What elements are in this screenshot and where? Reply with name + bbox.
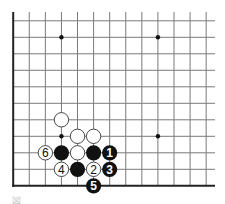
go-board-diagram: 614235 [0,0,225,204]
white-stone-icon [54,113,68,127]
white-stone-icon [70,129,84,143]
board-grid [12,12,215,187]
black-stone: 1 [102,145,117,160]
move-number-label: 1 [106,146,113,160]
move-number-label: 2 [90,163,97,177]
black-stone-icon [86,145,101,160]
white-stone [54,113,68,127]
move-number-label: 4 [58,163,65,177]
white-stone [86,129,100,143]
black-stone [86,145,101,160]
diagram-caption: 図 [12,196,22,204]
star-point-icon [156,134,160,138]
white-stone-icon [70,146,84,160]
white-stone [70,146,84,160]
white-stone: 4 [54,162,68,177]
black-stone-icon [54,145,69,160]
black-stone [54,145,69,160]
white-stone: 6 [38,146,52,161]
move-number-label: 3 [106,163,113,177]
black-stone: 5 [86,178,101,193]
white-stone [70,129,84,143]
white-stone-icon [86,129,100,143]
star-point-icon [156,35,160,39]
move-number-label: 5 [90,179,97,193]
black-stone-icon [70,162,85,177]
move-number-label: 6 [42,146,49,160]
star-point-icon [59,134,63,138]
black-stone [70,162,85,177]
black-stone: 3 [102,162,117,177]
white-stone: 2 [86,162,100,177]
star-point-icon [59,35,63,39]
